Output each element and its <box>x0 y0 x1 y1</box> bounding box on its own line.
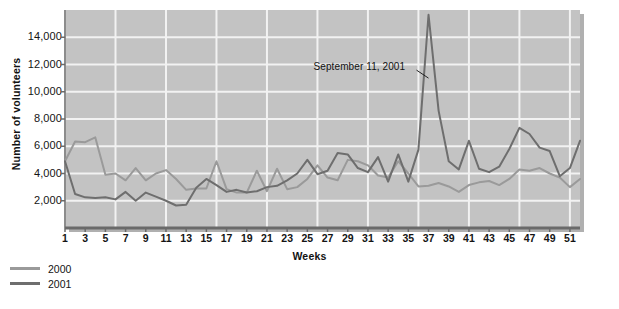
annotation-september-11: September 11, 2001 <box>314 61 406 72</box>
legend-item: 2001 <box>10 276 71 291</box>
x-axis-tick-labels: 1357911131517192123252729313335373941434… <box>0 232 619 248</box>
legend-label-2000: 2000 <box>48 263 71 275</box>
x-axis-title: Weeks <box>0 250 619 262</box>
chart-legend: 2000 2001 <box>10 261 71 291</box>
x-tick-label: 51 <box>558 232 582 244</box>
legend-swatch-2001 <box>10 282 40 285</box>
legend-swatch-2000 <box>10 267 40 270</box>
legend-label-2001: 2001 <box>48 278 71 290</box>
legend-item: 2000 <box>10 261 71 276</box>
plot-area <box>0 0 619 309</box>
volunteers-line-chart: Number of volunteers 2,0004,0006,0008,00… <box>0 0 619 309</box>
